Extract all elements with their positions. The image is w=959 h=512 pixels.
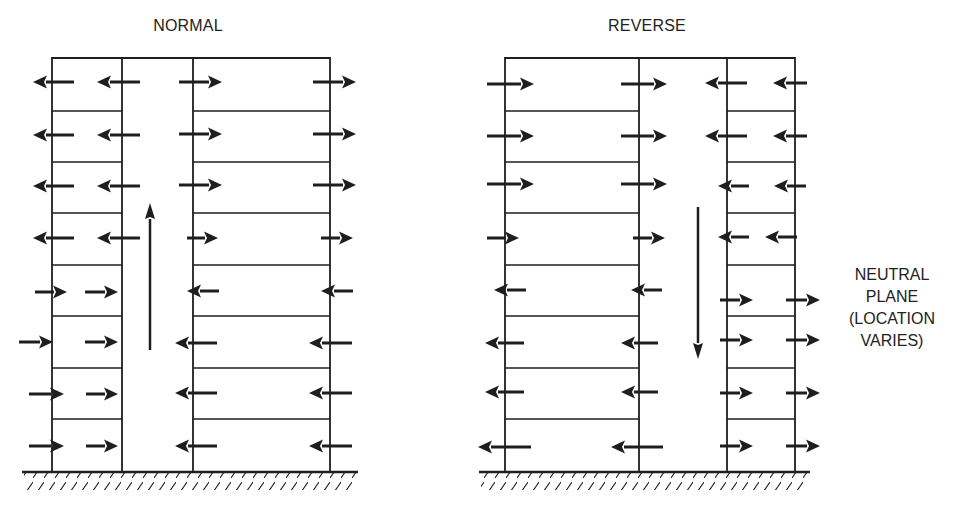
arrow-right-icon xyxy=(520,178,534,191)
arrow-right-icon xyxy=(651,232,665,245)
arrow-right-icon xyxy=(505,232,519,245)
arrow-left-icon xyxy=(773,77,787,90)
arrow-left-icon xyxy=(705,77,719,90)
arrow-right-icon xyxy=(104,388,118,401)
arrow-right-icon xyxy=(739,294,753,307)
arrow-left-icon xyxy=(97,180,111,193)
normal-panel xyxy=(19,57,358,490)
arrow-left-icon xyxy=(33,232,47,245)
arrow-left-icon xyxy=(97,76,111,89)
ground-hatch xyxy=(481,473,808,490)
arrow-left-icon xyxy=(97,232,111,245)
neutral-plane-label: NEUTRAL PLANE (LOCATION VARIES) xyxy=(832,264,952,352)
arrow-left-icon xyxy=(175,440,189,453)
arrow-left-icon xyxy=(705,130,719,143)
arrow-left-icon xyxy=(321,285,335,298)
arrow-left-icon xyxy=(478,441,492,454)
arrow-left-icon xyxy=(765,231,779,244)
arrow-left-icon xyxy=(611,441,625,454)
stack-effect-diagram xyxy=(0,0,959,512)
arrow-left-icon xyxy=(309,440,323,453)
arrow-left-icon xyxy=(175,337,189,350)
arrow-left-icon xyxy=(33,76,47,89)
arrow-right-icon xyxy=(104,440,118,453)
arrow-right-icon xyxy=(208,128,222,141)
arrow-right-icon xyxy=(204,232,218,245)
arrow-down-icon xyxy=(693,343,703,359)
arrow-right-icon xyxy=(342,76,356,89)
arrow-right-icon xyxy=(208,76,222,89)
arrow-right-icon xyxy=(806,334,820,347)
arrow-left-icon xyxy=(773,130,787,143)
arrow-right-icon xyxy=(342,128,356,141)
arrow-left-icon xyxy=(309,387,323,400)
arrow-right-icon xyxy=(342,179,356,192)
arrow-right-icon xyxy=(208,179,222,192)
arrow-left-icon xyxy=(485,337,499,350)
arrow-left-icon xyxy=(33,180,47,193)
arrow-right-icon xyxy=(806,440,820,453)
arrow-right-icon xyxy=(339,232,353,245)
arrow-left-icon xyxy=(718,180,732,193)
arrow-left-icon xyxy=(774,180,788,193)
arrow-left-icon xyxy=(485,386,499,399)
arrow-left-icon xyxy=(187,285,201,298)
arrow-right-icon xyxy=(806,387,820,400)
ground-hatch xyxy=(24,473,356,490)
arrow-right-icon xyxy=(653,130,667,143)
arrow-left-icon xyxy=(309,337,323,350)
arrow-right-icon xyxy=(653,178,667,191)
arrow-right-icon xyxy=(739,440,753,453)
arrow-left-icon xyxy=(175,387,189,400)
arrow-right-icon xyxy=(520,130,534,143)
arrow-right-icon xyxy=(806,294,820,307)
arrow-right-icon xyxy=(104,336,118,349)
arrow-left-icon xyxy=(631,284,645,297)
arrow-right-icon xyxy=(739,334,753,347)
arrow-right-icon xyxy=(39,336,53,349)
normal-title: NORMAL xyxy=(148,17,228,35)
arrow-right-icon xyxy=(104,286,118,299)
arrow-left-icon xyxy=(621,337,635,350)
arrow-right-icon xyxy=(653,78,667,91)
arrow-right-icon xyxy=(53,286,67,299)
reverse-title: REVERSE xyxy=(602,17,692,35)
reverse-panel xyxy=(478,57,820,490)
arrow-up-icon xyxy=(145,203,155,219)
arrow-right-icon xyxy=(739,387,753,400)
arrow-left-icon xyxy=(718,231,732,244)
arrow-left-icon xyxy=(33,129,47,142)
arrow-right-icon xyxy=(520,78,534,91)
arrow-left-icon xyxy=(97,129,111,142)
arrow-left-icon xyxy=(621,386,635,399)
